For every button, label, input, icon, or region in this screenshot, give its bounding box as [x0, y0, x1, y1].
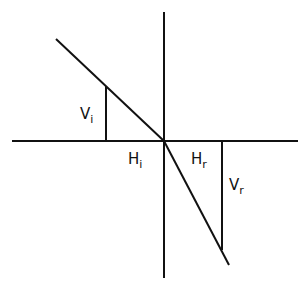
label-vr: Vr — [229, 176, 244, 197]
label-hi: Hi — [128, 150, 142, 171]
incident-ray — [56, 39, 164, 141]
label-vi: Vi — [80, 105, 93, 126]
diagram-canvas: Vi Hi Hr Vr — [0, 0, 303, 288]
diagram-lines — [0, 0, 303, 288]
label-hr: Hr — [191, 150, 207, 171]
